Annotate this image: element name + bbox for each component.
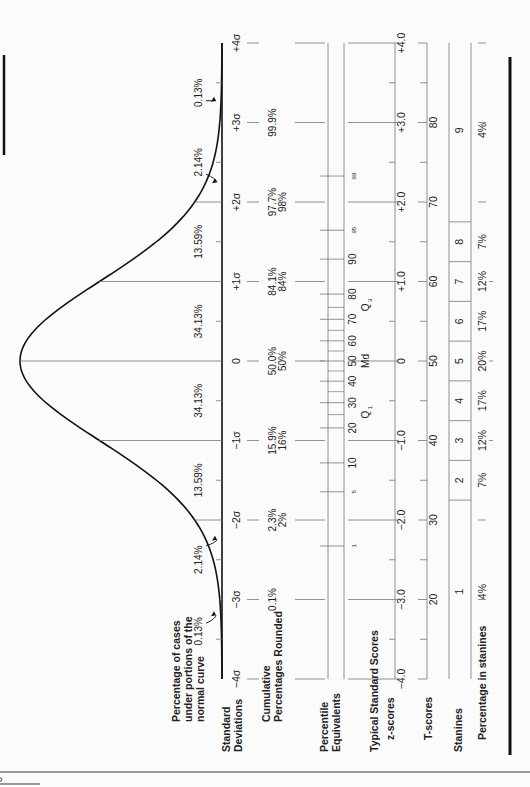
row-label-standard-deviations-2: Deviations <box>232 699 244 752</box>
arrow-head-icon <box>212 536 217 541</box>
row-label-percentile-2: Equivalents <box>330 693 342 752</box>
percentile-label: 5 <box>351 489 357 493</box>
percentile-marker-label: Q <box>360 411 371 419</box>
stanine-label: 6 <box>453 318 465 324</box>
stanine-percentage-label: 20% <box>476 350 488 371</box>
row-label-percentage-in-stanines: Percentage in stanines <box>476 625 488 740</box>
stanine-label: 2 <box>453 477 465 483</box>
t-tick-label: 80 <box>427 117 439 129</box>
curve-title-line3: normal curve <box>194 656 206 722</box>
area-percentage-label: 0.13% <box>193 78 204 106</box>
stanine-percentage-label: 12% <box>476 430 488 451</box>
area-percentage-label: 34.13% <box>193 384 204 418</box>
stanine-label: 5 <box>453 358 465 364</box>
row-label-standard-deviations: Standard <box>220 706 232 752</box>
stanine-percentage-label: 7% <box>476 473 488 488</box>
percentile-marker-label: Q <box>360 303 371 311</box>
percentile-marker-subscript: 3 <box>367 298 373 302</box>
area-percentage-label: 34.13% <box>193 304 204 338</box>
cumulative-rounded-label: 50% <box>277 351 288 371</box>
area-percentage-label: 13.59% <box>193 225 204 259</box>
t-tick-label: 20 <box>427 594 439 606</box>
sd-tick-label: −4σ <box>230 669 242 688</box>
percentile-label: 20 <box>347 422 358 434</box>
t-tick-label: 60 <box>427 276 439 288</box>
percentile-marker-label: Md <box>360 354 371 368</box>
row-label-cumulative: Cumulative <box>260 665 272 722</box>
sd-tick-label: +1σ <box>230 272 242 291</box>
normal-curve-chart: o 0.13%2.14%13.59%34.13%34.13%13.59%2.14… <box>0 0 530 787</box>
sd-tick-label: −1σ <box>230 431 242 450</box>
cumulative-rounded-label: 98% <box>277 192 288 212</box>
stanine-label: 7 <box>453 278 465 284</box>
arrow-head-icon <box>211 611 216 616</box>
stanine-percentage-label: 7% <box>476 234 488 249</box>
cumulative-exact-label: 99.9% <box>267 108 278 136</box>
percentile-marker-subscript: 1 <box>367 405 373 409</box>
cumulative-rounded-label: 16% <box>277 430 288 450</box>
curve-title-line2: under portions of the <box>182 616 194 722</box>
row-label-t-scores: T-scores <box>422 697 434 740</box>
stanine-percentage-label: 12% <box>476 271 488 292</box>
row-label-z-scores: z-scores <box>384 697 396 740</box>
percentile-label: 60 <box>347 335 358 347</box>
page-number: o <box>0 777 4 782</box>
percentile-label: 95 <box>351 226 357 233</box>
chart-rows: 0.13%2.14%13.59%34.13%34.13%13.59%2.14%0… <box>20 32 493 752</box>
t-tick-label: 70 <box>427 196 439 208</box>
percentile-label: 1 <box>351 544 357 548</box>
percentile-label: 40 <box>347 375 358 387</box>
row-label-percentile: Percentile <box>318 702 330 752</box>
stanine-label: 8 <box>453 239 465 245</box>
percentile-label: 10 <box>347 457 358 469</box>
stanine-label: 4 <box>453 398 465 404</box>
stanine-percentage-label: 4% <box>476 584 488 599</box>
area-percentage-label: 13.59% <box>193 463 204 497</box>
percentile-label: 99 <box>351 172 357 179</box>
sd-tick-label: +3σ <box>230 113 242 132</box>
cumulative-rounded-label: 2% <box>277 513 288 528</box>
cumulative-rounded-label: 84% <box>277 271 288 291</box>
stanine-percentage-label: 17% <box>476 311 488 332</box>
pointer-arrow <box>206 615 216 623</box>
t-tick-label: 30 <box>427 514 439 526</box>
t-tick-label: 50 <box>427 355 439 367</box>
sd-tick-label: −3σ <box>230 590 242 609</box>
stanine-label: 1 <box>453 588 465 594</box>
stanine-label: 3 <box>453 437 465 443</box>
percentile-label: 30 <box>347 397 358 409</box>
row-label-typical-scores: Typical Standard Scores <box>368 630 380 752</box>
curve-title-line1: Percentage of cases <box>170 620 182 722</box>
cumulative-exact-label: 0.1% <box>267 588 278 611</box>
percentile-label: 50 <box>347 355 358 367</box>
sd-tick-label: 0 <box>230 358 242 364</box>
stanine-label: 9 <box>453 127 465 133</box>
area-percentage-label: 2.14% <box>193 545 204 573</box>
percentile-label: 90 <box>347 253 358 265</box>
sd-tick-label: +2σ <box>230 192 242 211</box>
percentile-label: 80 <box>347 288 358 300</box>
sd-tick-label: +4σ <box>230 33 242 52</box>
area-percentage-label: 2.14% <box>193 148 204 176</box>
row-label-cumulative-2: Percentages Rounded <box>272 611 284 722</box>
area-percentage-label: 0.13% <box>193 617 204 645</box>
row-label-stanines: Stanines <box>452 708 464 752</box>
t-tick-label: 40 <box>427 435 439 447</box>
sd-tick-label: −2σ <box>230 510 242 529</box>
stanine-percentage-label: 4% <box>476 123 488 138</box>
stanine-percentage-label: 17% <box>476 390 488 411</box>
percentile-label: 70 <box>347 313 358 325</box>
